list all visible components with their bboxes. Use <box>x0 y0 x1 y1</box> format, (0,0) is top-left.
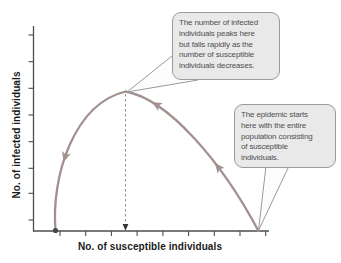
epidemic-phase-diagram: The number of infected individuals peaks… <box>0 0 341 263</box>
callout-start-annotation: The epidemic starts here with the entire… <box>234 104 336 168</box>
curve-direction-arrow-left-icon <box>59 151 71 163</box>
callout-peak-annotation: The number of infected individuals peaks… <box>172 12 280 80</box>
callout-tail-start <box>259 166 290 231</box>
epidemic-curve <box>55 92 259 232</box>
peak-drop-arrowhead-icon <box>123 224 129 231</box>
x-axis-label: No. of susceptible individuals <box>78 241 222 252</box>
curve-end-dot <box>53 228 58 233</box>
y-axis-label: No. of infected individuals <box>11 71 22 198</box>
